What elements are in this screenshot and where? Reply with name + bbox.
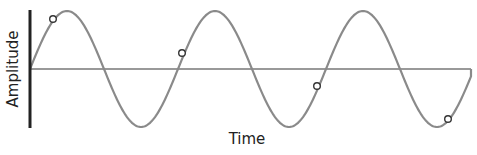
- sample-point-marker: [314, 83, 321, 90]
- sample-point-marker: [445, 116, 452, 123]
- sample-point-marker: [50, 16, 57, 23]
- x-axis-label: Time: [217, 130, 277, 148]
- y-axis-label: Amplitude: [4, 24, 22, 114]
- sample-point-marker: [179, 50, 186, 57]
